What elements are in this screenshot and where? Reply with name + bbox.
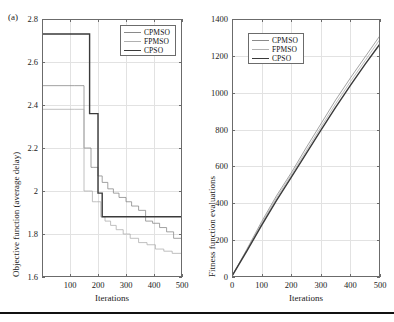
series-canvas xyxy=(0,0,394,322)
series-line-cpso xyxy=(232,44,380,276)
legend-line-swatch-icon xyxy=(252,49,269,50)
legend-line-swatch-icon xyxy=(252,58,269,59)
figure-container: (a) 1002003004005001.61.822.22.42.62.8It… xyxy=(0,0,394,322)
fitness-evaluations-panel: 0100200300400500020040060080010001200140… xyxy=(0,0,394,322)
legend-line-swatch-icon xyxy=(252,40,269,41)
legend-item-label: CPSO xyxy=(272,54,291,63)
legend-item-cpmso[interactable]: CPMSO xyxy=(252,36,300,45)
legend-item-cpso[interactable]: CPSO xyxy=(252,54,300,63)
legend-item-label: FPMSO xyxy=(272,45,297,54)
legend-item-fpmso[interactable]: FPMSO xyxy=(252,45,300,54)
legend-item-label: CPMSO xyxy=(272,36,298,45)
bottom-horizontal-rule xyxy=(0,312,394,314)
legend[interactable]: CPMSOFPMSOCPSO xyxy=(248,33,304,64)
